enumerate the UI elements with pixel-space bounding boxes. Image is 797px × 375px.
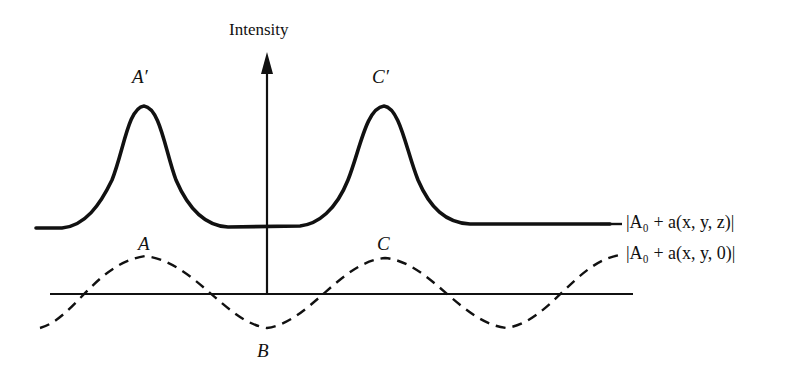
trough-label-b: B xyxy=(257,341,269,360)
dashed-intensity-curve xyxy=(40,255,620,328)
legend-dashed-curve: |A₀ + a(x, y, 0)| xyxy=(626,244,735,262)
peak-label-c-prime: C′ xyxy=(372,67,389,86)
axis-arrow-icon xyxy=(261,52,273,74)
peak-label-a-prime: A′ xyxy=(132,67,148,86)
solid-intensity-curve xyxy=(36,106,610,228)
intensity-diagram xyxy=(0,0,797,375)
legend-solid-curve: |A₀ + a(x, y, z)| xyxy=(626,213,734,231)
peak-label-c: C xyxy=(377,234,390,253)
axis-label-intensity: Intensity xyxy=(229,21,289,38)
peak-label-a: A xyxy=(138,234,150,253)
